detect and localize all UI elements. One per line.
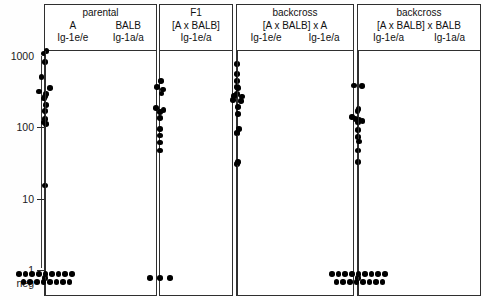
data-point <box>157 133 163 139</box>
data-point <box>158 78 164 84</box>
panel-genotype-row-parental: Ig-1e/eIg-1a/a <box>45 32 156 45</box>
data-point-negative <box>362 271 368 277</box>
plot-column-parental-Ig1aa <box>45 51 46 295</box>
data-point <box>47 85 53 91</box>
data-point-negative <box>373 279 379 285</box>
panel-genotype-row-f1: Ig-1e/a <box>160 32 232 45</box>
panel-genotype-label: Ig-1a/a <box>101 32 157 45</box>
data-point-negative <box>375 271 381 277</box>
panel-group-backcross-balb: backcross[A x BALB] x BALBIg-1e/aIg-1a/a <box>357 4 481 296</box>
panel-cross-backcross-a: [A x BALB] x A <box>237 20 353 33</box>
data-point <box>235 111 241 117</box>
plot-area-backcross-a <box>237 51 238 295</box>
data-point <box>231 93 237 99</box>
data-point <box>235 159 241 165</box>
y-tick-mark-100 <box>37 127 44 128</box>
data-point <box>359 83 365 89</box>
data-point-negative <box>41 279 47 285</box>
data-point-negative <box>56 271 62 277</box>
panel-genotype-row-backcross-balb: Ig-1e/aIg-1a/a <box>358 32 480 45</box>
data-point-negative <box>36 271 42 277</box>
data-point <box>235 104 241 110</box>
plot-area-parental <box>45 51 46 295</box>
panel-cross-f1: [A x BALB] <box>160 20 232 33</box>
data-point-negative <box>54 279 60 285</box>
data-point <box>159 91 165 97</box>
data-point-negative <box>380 279 386 285</box>
panel-title-f1: F1 <box>160 7 232 20</box>
y-axis-line <box>41 56 42 268</box>
figure-strip-plot: 1000100101neg parentalABALBIg-1e/eIg-1a/… <box>0 0 483 300</box>
data-point <box>39 74 45 80</box>
data-point-negative <box>47 279 53 285</box>
data-point-negative <box>157 275 163 281</box>
data-point-negative <box>349 271 355 277</box>
panel-genotype-label: Ig-1e/e <box>237 32 295 45</box>
panel-header-parental: parentalABALBIg-1e/eIg-1a/a <box>45 5 156 51</box>
panel-genotype-label: Ig-1e/a <box>160 32 232 45</box>
panel-header-backcross-balb: backcross[A x BALB] x BALBIg-1e/aIg-1a/a <box>358 5 480 51</box>
y-axis: 1000100101neg <box>0 0 44 300</box>
panel-title-backcross-a: backcross <box>237 7 353 20</box>
panel-strain-row-parental: ABALB <box>45 20 156 33</box>
y-tick-label-10: 10 <box>22 193 34 204</box>
panel-genotype-label: Ig-1e/a <box>358 32 419 45</box>
panel-strain-label: A <box>45 20 101 33</box>
data-point-negative <box>367 279 373 285</box>
panel-group-f1: F1[A x BALB]Ig-1e/a <box>159 4 233 296</box>
data-point-negative <box>16 271 22 277</box>
panel-group-backcross-a: backcross[A x BALB] x AIg-1e/eIg-1e/a <box>236 4 354 296</box>
plot-area-backcross-balb <box>358 51 359 295</box>
panel-genotype-label: Ig-1e/e <box>45 32 101 45</box>
data-point-negative <box>167 275 173 281</box>
data-point-negative <box>354 279 360 285</box>
data-point <box>157 115 163 121</box>
plot-column-backcross-a-Ig1ea <box>237 51 238 295</box>
data-point-negative <box>62 271 68 277</box>
data-point <box>235 85 241 91</box>
panel-strain-label: BALB <box>101 20 157 33</box>
data-point <box>36 89 42 95</box>
panel-title-parental: parental <box>45 7 156 20</box>
data-point-negative <box>43 271 49 277</box>
data-point <box>157 109 163 115</box>
data-point-negative <box>34 279 40 285</box>
data-point-negative <box>342 271 348 277</box>
panel-cross-backcross-balb: [A x BALB] x BALB <box>358 20 480 33</box>
data-point-negative <box>60 279 66 285</box>
data-point-negative <box>69 271 75 277</box>
panel-group-parental: parentalABALBIg-1e/eIg-1a/a <box>44 4 157 296</box>
data-point-negative <box>49 271 55 277</box>
data-point-negative <box>29 271 35 277</box>
data-point <box>157 140 163 146</box>
data-point-negative <box>329 271 335 277</box>
panel-genotype-label: Ig-1a/a <box>419 32 480 45</box>
plot-column-backcross-balb-Ig1aa <box>358 51 359 295</box>
panel-genotype-label: Ig-1e/a <box>295 32 353 45</box>
data-point-negative <box>21 279 27 285</box>
data-point <box>239 94 245 100</box>
y-tick-label-100: 100 <box>16 122 34 133</box>
data-point-negative <box>340 279 346 285</box>
data-point-negative <box>147 275 153 281</box>
data-point-negative <box>27 279 33 285</box>
data-point <box>351 83 357 89</box>
data-point-negative <box>356 271 362 277</box>
data-point <box>157 126 163 132</box>
panel-header-f1: F1[A x BALB]Ig-1e/a <box>160 5 232 51</box>
data-point-negative <box>369 271 375 277</box>
data-point <box>157 148 163 154</box>
panel-title-backcross-balb: backcross <box>358 7 480 20</box>
data-point-negative <box>67 279 73 285</box>
data-point-negative <box>360 279 366 285</box>
y-tick-label-1000: 1000 <box>11 51 34 62</box>
data-point-negative <box>347 279 353 285</box>
y-tick-mark-10 <box>37 199 44 200</box>
panel-genotype-row-backcross-a: Ig-1e/eIg-1e/a <box>237 32 353 45</box>
panel-header-backcross-a: backcross[A x BALB] x AIg-1e/eIg-1e/a <box>237 5 353 51</box>
data-point-negative <box>382 271 388 277</box>
data-point-negative <box>334 279 340 285</box>
data-point <box>356 139 362 145</box>
data-point <box>154 84 160 90</box>
